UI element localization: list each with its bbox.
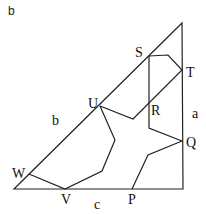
vertex-label-r: R — [151, 103, 161, 118]
vertex-label-s: S — [135, 45, 143, 60]
vertex-label-w: W — [12, 166, 26, 181]
side-label-c: c — [94, 197, 100, 212]
geometry-diagram: b S T U R Q W V P a b c — [0, 0, 206, 214]
polyline-u-v-w — [29, 106, 115, 189]
polyline-s-t-u — [100, 55, 182, 119]
vertex-label-t: T — [186, 65, 195, 80]
polyline-p-q — [132, 141, 182, 189]
vertex-label-q: Q — [186, 135, 196, 150]
side-label-a: a — [192, 106, 199, 121]
figure-caption: b — [8, 4, 15, 18]
side-label-b: b — [52, 113, 59, 128]
vertex-label-u: U — [88, 96, 98, 111]
vertex-label-p: P — [128, 192, 136, 207]
vertex-label-v: V — [61, 192, 71, 207]
